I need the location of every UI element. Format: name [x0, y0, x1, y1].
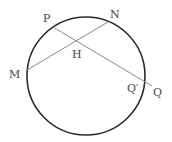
label-q-prime: Q′: [127, 82, 139, 95]
geometry-diagram: P N H M Q′ Q: [0, 0, 172, 142]
label-n: N: [110, 8, 120, 21]
diagram-svg: P N H M Q′ Q: [0, 0, 172, 142]
label-h: H: [72, 48, 82, 61]
label-m: M: [9, 68, 20, 81]
line-pq: [53, 27, 152, 86]
label-q: Q: [153, 86, 162, 99]
chord-mn: [27, 22, 108, 70]
label-p: P: [43, 12, 51, 25]
